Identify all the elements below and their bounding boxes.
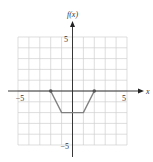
function-graph: f(x) x −5 5 5 −5 [0,0,153,162]
endpoint-dot [93,89,97,93]
y-axis-arrow-icon [70,21,75,27]
x-axis-arrow-icon [138,89,144,94]
y-max-tick-label: 5 [64,35,68,44]
x-axis [8,89,144,94]
x-max-tick-label: 5 [122,94,126,103]
x-min-tick-label: −5 [16,94,25,103]
x-axis-label: x [145,87,150,96]
y-axis [70,21,75,157]
y-axis-label: f(x) [67,10,78,19]
endpoint-dot [49,89,53,93]
y-min-tick-label: −5 [60,142,69,151]
